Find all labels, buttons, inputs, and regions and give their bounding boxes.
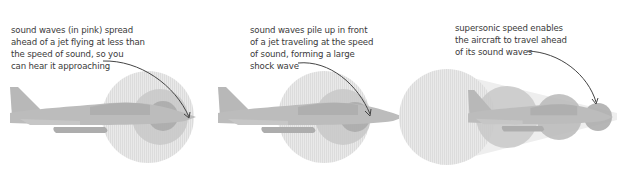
caption-line: sound waves (in pink) spread [11, 24, 145, 36]
caption-line: of a jet traveling at the speed [250, 36, 373, 48]
caption-line: can hear it approaching [11, 60, 145, 72]
sonic-illustration [218, 63, 404, 163]
caption-line: sound waves pile up in front [250, 24, 373, 36]
caption-line: ahead of a jet flying at less than [11, 36, 145, 48]
caption-line: supersonic speed enables [455, 22, 567, 34]
subsonic-illustration [10, 61, 196, 163]
subsonic-caption: sound waves (in pink) spread ahead of a … [11, 24, 145, 72]
supersonic-caption: supersonic speed enables the aircraft to… [455, 22, 567, 58]
caption-line: of its sound waves [455, 46, 567, 58]
caption-line: the speed of sound, so you [11, 48, 145, 60]
sonic-caption: sound waves pile up in front of a jet tr… [250, 24, 373, 72]
caption-line: the aircraft to travel ahead [455, 34, 567, 46]
caption-line: shock wave [250, 60, 373, 72]
supersonic-illustration [399, 51, 617, 165]
caption-line: of sound, forming a large [250, 48, 373, 60]
